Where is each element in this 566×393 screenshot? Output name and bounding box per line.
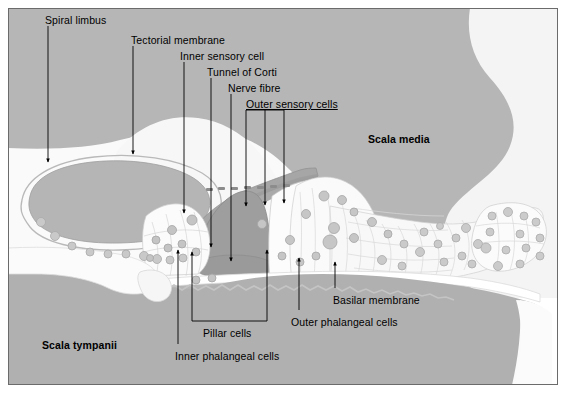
cell-nucleus (398, 262, 406, 270)
cell-nucleus (520, 212, 528, 220)
cell-nucleus (516, 260, 524, 268)
cell-nucleus (420, 228, 428, 236)
cell-nucleus (286, 236, 295, 245)
cell-nucleus (532, 218, 540, 226)
label-nerve-fibre: Nerve fibre (228, 82, 280, 94)
cell-nucleus (350, 208, 358, 216)
cell-nucleus (296, 258, 304, 266)
label-pillar-cells: Pillar cells (203, 327, 251, 339)
label-spiral-limbus: Spiral limbus (45, 14, 106, 26)
label-inner-sensory-cell: Inner sensory cell (180, 50, 264, 62)
cell-nucleus (166, 256, 174, 264)
cell-nucleus (516, 230, 524, 238)
cell-nucleus (440, 258, 448, 266)
label-inner-phalangeal-cells: Inner phalangeal cells (175, 350, 279, 362)
cell-nucleus (368, 218, 377, 227)
cell-nucleus (384, 230, 392, 238)
label-tectorial-membrane: Tectorial membrane (131, 34, 225, 46)
cell-nucleus (278, 252, 286, 260)
cell-nucleus (104, 250, 112, 258)
cell-nucleus (481, 243, 491, 253)
label-basilar-membrane: Basilar membrane (333, 294, 420, 306)
cell-nucleus (192, 248, 200, 256)
cell-nucleus (400, 240, 408, 248)
cell-nucleus (416, 248, 425, 257)
cell-nucleus (302, 210, 311, 219)
cell-nucleus (458, 252, 466, 260)
label-tunnel-of-corti: Tunnel of Corti (207, 66, 277, 78)
cell-nucleus (168, 226, 177, 235)
cell-nucleus (187, 215, 197, 225)
cell-nucleus (68, 242, 76, 250)
cell-nucleus (350, 234, 359, 243)
cell-nucleus (86, 248, 94, 256)
cell-nucleus (164, 244, 172, 252)
cell-nucleus (319, 191, 329, 201)
cell-nucleus (536, 234, 544, 242)
cell-nucleus (208, 274, 216, 282)
cell-nucleus (502, 246, 510, 254)
cell-nucleus (378, 256, 387, 265)
cell-nucleus (329, 223, 340, 234)
label-scala-tympanii: Scala tympanii (42, 339, 117, 351)
cell-nucleus (178, 240, 186, 248)
diagram-canvas: Spiral limbus Tectorial membrane Inner s… (0, 0, 566, 393)
organ-of-corti-figure (0, 0, 566, 393)
cell-nucleus (462, 224, 471, 233)
cell-nucleus (258, 220, 267, 229)
cell-nucleus (37, 218, 46, 227)
cell-nucleus (488, 212, 496, 220)
cell-nucleus (179, 254, 187, 262)
label-scala-media: Scala media (368, 133, 430, 145)
cell-nucleus (536, 252, 544, 260)
label-outer-phalangeal-cells: Outer phalangeal cells (291, 316, 398, 328)
cell-nucleus (312, 252, 320, 260)
cell-nucleus (522, 244, 530, 252)
cell-nucleus (338, 196, 347, 205)
cell-nucleus (152, 236, 160, 244)
cell-nucleus (147, 255, 154, 262)
cell-nucleus (468, 260, 476, 268)
cell-nucleus (452, 234, 460, 242)
cell-nucleus (122, 250, 130, 258)
cell-nucleus (437, 223, 444, 230)
cell-nucleus (504, 208, 513, 217)
cell-nucleus (192, 276, 200, 284)
cell-nucleus (51, 232, 60, 241)
cell-nucleus (153, 255, 162, 264)
cell-nucleus (486, 228, 494, 236)
cell-nucleus (323, 235, 337, 249)
cell-nucleus (494, 262, 503, 271)
cell-nucleus (434, 240, 442, 248)
label-outer-sensory-cells: Outer sensory cells (246, 98, 338, 110)
